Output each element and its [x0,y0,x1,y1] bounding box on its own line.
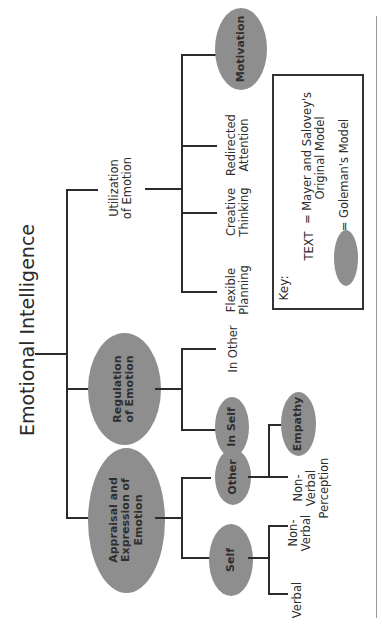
utilization-stub [66,189,98,191]
redirected-attention-label: Redirected Attention [225,114,251,176]
regulation-connector [155,388,183,390]
in-self-label: In Self [226,407,238,447]
other-connector [248,476,269,478]
appraisal-connector [155,517,183,519]
nonverbal-perception-stub [268,476,288,478]
other-stub [181,477,211,479]
key-ellipse-sample [334,230,358,286]
regulation-bus [181,348,183,431]
key-ellipse-meaning: = Goleman's Model [338,119,351,231]
utilization-bus [181,54,183,293]
in-other-label: In Other [227,326,240,373]
regulation-label: Regulation of Emotion [112,355,137,422]
motivation-stub [181,54,217,56]
appraisal-label: Appraisal and Expression of Emotion [108,477,145,563]
flexible-stub [181,291,217,293]
other-label: Other [227,459,239,494]
self-bus [268,525,270,595]
other-bus [268,424,270,478]
in-other-stub [181,348,216,350]
verbal-label: Verbal [291,582,304,618]
nonverbal-stub [268,525,288,527]
creative-thinking-label: Creative Thinking [225,187,251,236]
main-trunk [66,189,68,519]
page-edge-rule [376,16,377,618]
in-self-stub [181,429,216,431]
creative-stub [181,212,217,214]
key-text-meaning: = Mayer and Salovey's Original Model [301,92,327,224]
flexible-planning-label: Flexible Planning [225,265,251,315]
appraisal-bus [181,477,183,559]
key-heading: Key: [278,276,291,301]
nonverbal-label: Non- Verbal [287,515,313,551]
self-stub [181,557,211,559]
self-label: Self [225,548,237,572]
verbal-stub [268,593,288,595]
motivation-label: Motivation [235,16,247,83]
title-connector [35,353,68,355]
utilization-connector [145,188,183,190]
key-text-sample: TEXT [303,232,316,261]
nonverbal-perception-label: Non- Verbal Perception [292,458,331,519]
self-connector [248,557,270,559]
empathy-label: Empathy [292,397,304,452]
diagram-title: Emotional Intelligence [17,224,38,436]
redirected-stub [181,145,217,147]
utilization-label: Utilization of Emotion [108,157,134,219]
